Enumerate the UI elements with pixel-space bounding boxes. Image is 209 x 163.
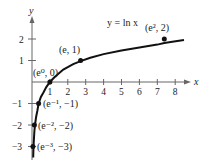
label-em3: (e⁻³, −3) (37, 141, 72, 153)
x-tick-4: 4 (101, 87, 106, 97)
function-label: y = ln x (107, 17, 138, 28)
x-axis-arrow-icon (184, 80, 191, 85)
point-em3 (30, 144, 35, 149)
label-em2: (e⁻², −2) (38, 120, 73, 132)
label-e0: (e⁰, 0) (33, 67, 58, 79)
y-tick-1: 1 (19, 56, 24, 66)
x-tick-7: 7 (155, 87, 160, 97)
y-tick-neg2: −2 (12, 121, 22, 131)
x-tick-2: 2 (65, 87, 70, 97)
point-e2 (162, 37, 167, 42)
label-e1: (e, 1) (59, 44, 80, 56)
x-axis-label: x (193, 76, 199, 87)
ln-graph: x y 1 2 3 4 5 6 7 8 2 1 −1 −2 −3 (0, 0, 209, 163)
x-tick-3: 3 (83, 87, 88, 97)
point-e0 (47, 80, 52, 85)
y-axis-label: y (28, 5, 34, 16)
x-tick-1: 1 (48, 87, 53, 97)
label-em1: (e⁻¹, −1) (43, 98, 78, 110)
x-tick-6: 6 (137, 87, 142, 97)
x-tick-8: 8 (173, 87, 178, 97)
y-axis-arrow-icon (30, 16, 35, 23)
x-tick-5: 5 (119, 87, 124, 97)
point-em1 (36, 101, 41, 106)
y-tick-2: 2 (19, 35, 24, 45)
point-em2 (32, 123, 37, 128)
y-tick-neg1: −1 (12, 99, 22, 109)
y-tick-neg3: −3 (12, 142, 22, 152)
label-e2: (e², 2) (145, 22, 169, 34)
point-e1 (78, 58, 83, 63)
